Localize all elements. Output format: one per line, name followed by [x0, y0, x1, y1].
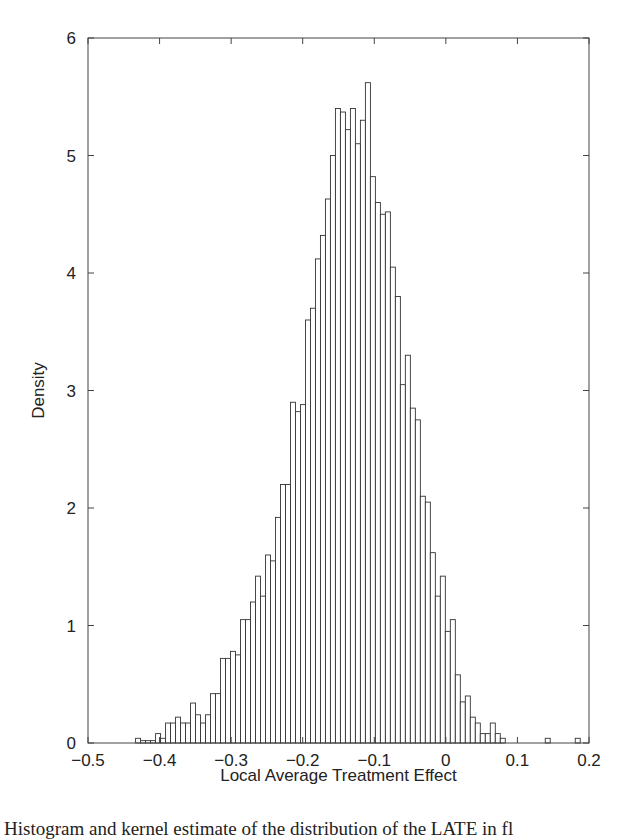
histogram-bar [340, 112, 345, 743]
histogram-bar [455, 675, 460, 743]
histogram-bar [450, 620, 455, 743]
y-tick-label: 2 [67, 499, 76, 518]
histogram-bar [216, 694, 221, 743]
histogram-bar [270, 561, 275, 743]
y-axis-label: Density [29, 362, 48, 419]
x-tick-label: 0.1 [506, 751, 530, 770]
y-tick-labels: 0123456 [67, 29, 76, 753]
histogram-bar [241, 620, 246, 743]
histogram-bar [191, 703, 196, 743]
histogram-bar [395, 297, 400, 744]
histogram-bar [246, 620, 251, 743]
y-tick-label: 1 [67, 617, 76, 636]
histogram-bar [181, 723, 186, 743]
y-tick-label: 5 [67, 147, 76, 166]
histogram-bar [350, 109, 355, 744]
histogram-bar [226, 658, 231, 743]
histogram-bar [310, 308, 315, 743]
y-tick-label: 3 [67, 382, 76, 401]
histogram-bar [290, 402, 295, 743]
histogram-bar [136, 738, 141, 743]
histogram-bar [260, 596, 265, 743]
histogram-bar [196, 715, 201, 743]
histogram-bar [206, 715, 211, 743]
histogram-bar [415, 420, 420, 743]
histogram-bar [335, 109, 340, 744]
histogram-bar [176, 717, 181, 743]
histogram-bar [355, 144, 360, 743]
histogram-bar [500, 738, 505, 743]
histogram-bar [305, 320, 310, 743]
histogram-bar [440, 576, 445, 743]
histogram-bar [201, 723, 206, 743]
histogram-bar [430, 553, 435, 743]
histogram-bar [475, 723, 480, 743]
histogram-bar [575, 738, 580, 743]
histogram-bar [480, 734, 485, 743]
histogram-bar [265, 555, 270, 743]
histogram-bar [255, 576, 260, 743]
histogram-bar [445, 631, 450, 743]
histogram-bar [171, 723, 176, 743]
histogram-bar [545, 738, 550, 743]
histogram-bar [420, 496, 425, 743]
histogram-bar [485, 734, 490, 743]
histogram-bar [470, 717, 475, 743]
histogram-bar [375, 203, 380, 744]
histogram-bar [231, 651, 236, 743]
histogram-bar [390, 267, 395, 743]
histogram-bar [410, 408, 415, 743]
histogram-bar [465, 696, 470, 743]
histogram-bar [275, 517, 280, 743]
histogram-bar [186, 723, 191, 743]
histogram-bar [460, 702, 465, 743]
histogram-chart: −0.5−0.4−0.3−0.2−0.100.10.2 0123456 Loca… [0, 0, 636, 810]
histogram-bar [400, 385, 405, 743]
histogram-bar [280, 485, 285, 744]
histogram-bar [425, 502, 430, 743]
histogram-bar [211, 694, 216, 743]
x-tick-label: −0.4 [143, 751, 177, 770]
histogram-bar [251, 602, 256, 743]
histogram-bar [300, 405, 305, 743]
histogram-bar [295, 412, 300, 743]
y-tick-label: 0 [67, 734, 76, 753]
histogram-bar [365, 83, 370, 743]
histogram-bar [435, 596, 440, 743]
histogram-bar [345, 130, 350, 743]
histogram-bar [285, 485, 290, 744]
histogram-bar [360, 120, 365, 743]
y-tick-label: 4 [67, 264, 76, 283]
histogram-bar [490, 723, 495, 743]
histogram-bar [325, 199, 330, 743]
histogram-bar [385, 212, 390, 743]
histogram-bar [236, 655, 241, 743]
histogram-bar [161, 738, 166, 743]
histogram-bar [320, 235, 325, 743]
figure-caption: Histogram and kernel estimate of the dis… [4, 818, 513, 840]
histogram-bar [166, 723, 171, 743]
y-tick-label: 6 [67, 29, 76, 48]
x-axis-label: Local Average Treatment Effect [220, 766, 457, 785]
histogram-bar [495, 734, 500, 743]
histogram-bar [315, 259, 320, 743]
histogram-bar [405, 355, 410, 743]
histogram-bar [221, 658, 226, 743]
histogram-bar [330, 156, 335, 744]
histogram-bar [370, 177, 375, 743]
histogram-bar [380, 214, 385, 743]
x-tick-label: −0.5 [71, 751, 105, 770]
x-tick-label: 0.2 [577, 751, 601, 770]
histogram-bars [136, 83, 581, 743]
